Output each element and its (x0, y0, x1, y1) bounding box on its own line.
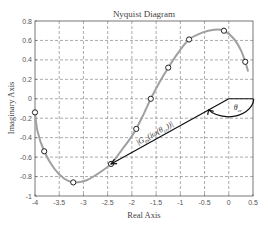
data-point-marker (32, 110, 37, 115)
x-tick-label: 0.5 (248, 199, 258, 206)
grid-lines (35, 21, 253, 196)
data-point-marker (134, 126, 139, 131)
y-tick-label: -0.8 (20, 173, 32, 180)
annotations: θcr |Gps(iω(θcr))| (111, 99, 254, 164)
data-point-marker (71, 180, 76, 185)
x-tick-label: -3 (80, 199, 86, 206)
x-tick-label: -0.5 (199, 199, 211, 206)
plot-frame (35, 21, 253, 196)
y-tick-label: -0.4 (20, 134, 32, 141)
data-point-marker (243, 59, 248, 64)
x-tick-label: -4 (32, 199, 38, 206)
y-tick-label: 0 (28, 95, 32, 102)
data-point-marker (186, 37, 191, 42)
nyquist-chart: -4-3.5-3-2.5-2-1.5-1-0.500.5 0.80.60.40.… (0, 0, 268, 226)
x-tick-label: -2.5 (102, 199, 114, 206)
x-tick-label: -3.5 (53, 199, 65, 206)
data-point-marker (166, 65, 171, 70)
y-axis-ticks: 0.80.60.40.20-0.2-0.4-0.6-0.8-1 (20, 18, 37, 200)
x-tick-label: -2 (129, 199, 135, 206)
y-tick-label: 0.8 (22, 18, 32, 25)
y-axis-label: Imaginary Axis (6, 82, 16, 135)
y-tick-label: 0.4 (22, 56, 32, 63)
data-point-marker (221, 28, 226, 33)
chart-title: Nyquist Diagram (113, 9, 175, 19)
y-tick-label: -0.2 (20, 115, 32, 122)
angle-arc (209, 99, 254, 117)
vector-magnitude-label: |Gps(iω(θcr))| (135, 119, 176, 148)
x-tick-label: -1.5 (150, 199, 162, 206)
angle-label: θcr (234, 103, 242, 113)
data-point-marker (148, 96, 153, 101)
y-tick-label: -0.6 (20, 154, 32, 161)
y-tick-label: -1 (26, 193, 32, 200)
magnitude-vector (111, 99, 229, 164)
y-tick-label: 0.2 (22, 76, 32, 83)
x-tick-label: -1 (177, 199, 183, 206)
y-tick-label: 0.6 (22, 37, 32, 44)
data-point-marker (42, 149, 47, 154)
x-tick-label: 0 (227, 199, 231, 206)
x-axis-label: Real Axis (127, 210, 160, 220)
